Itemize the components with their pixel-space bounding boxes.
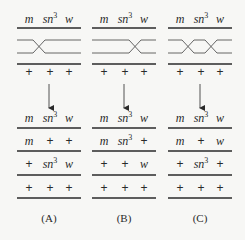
product-allele: m <box>25 111 34 125</box>
parent-top-allele: sn3 <box>118 11 133 26</box>
product-allele: m <box>100 111 109 125</box>
product-allele: + <box>216 157 223 171</box>
parent-bottom-allele: + <box>65 65 72 79</box>
product-chromosome: +++ <box>168 181 232 198</box>
product-allele: + <box>176 181 183 195</box>
parent-top-allele: m <box>100 12 109 26</box>
product-chromosome: msn3w <box>17 110 81 128</box>
parent-top-allele: sn3 <box>194 11 209 26</box>
parent-bottom-allele: + <box>25 65 32 79</box>
product-allele: w <box>65 111 73 125</box>
product-allele: + <box>121 181 128 195</box>
product-allele: + <box>100 181 107 195</box>
crossover-strands <box>92 40 156 53</box>
panel-a: msn3w+++msn3wm+++sn3w+++(A) <box>17 11 81 225</box>
panel-label: (C) <box>193 212 208 225</box>
product-chromosome: +sn3w <box>17 156 81 175</box>
parent-top-allele: m <box>25 12 34 26</box>
product-allele: + <box>140 181 147 195</box>
product-allele: sn3 <box>118 133 133 148</box>
product-allele: m <box>176 111 185 125</box>
product-allele: m <box>25 134 34 148</box>
product-allele: + <box>25 181 32 195</box>
product-allele: w <box>140 157 148 171</box>
product-allele: sn3 <box>194 110 209 125</box>
product-chromosome: +sn3+ <box>168 156 232 175</box>
product-allele: w <box>216 111 224 125</box>
product-chromosome: msn3w <box>168 110 232 128</box>
parent-top-allele: m <box>176 12 185 26</box>
parent-bottom-allele: + <box>176 65 183 79</box>
product-allele: m <box>100 134 109 148</box>
product-chromosome: +++ <box>92 181 156 198</box>
product-allele: + <box>65 134 72 148</box>
product-chromosome: m++ <box>17 134 81 151</box>
product-allele: + <box>176 157 183 171</box>
parent-bottom-allele: + <box>121 65 128 79</box>
product-allele: m <box>176 134 185 148</box>
product-allele: w <box>216 134 224 148</box>
product-allele: + <box>25 157 32 171</box>
parent-bottom-allele: + <box>100 65 107 79</box>
product-chromosome: m+w <box>168 134 232 151</box>
product-allele: w <box>65 157 73 171</box>
product-allele: sn3 <box>43 156 58 171</box>
product-chromosome: ++w <box>92 157 156 175</box>
product-allele: + <box>100 157 107 171</box>
product-chromosome: msn3w <box>92 110 156 128</box>
panel-label: (B) <box>117 212 132 225</box>
panel-b: msn3w+++msn3wmsn3+++w+++(B) <box>92 11 156 225</box>
product-allele: + <box>197 134 204 148</box>
crossover-strands <box>17 40 81 53</box>
product-allele: + <box>65 181 72 195</box>
panel-label: (A) <box>41 212 57 225</box>
product-allele: + <box>140 134 147 148</box>
crossover-strands <box>168 40 232 53</box>
product-allele: + <box>216 181 223 195</box>
parent-top-allele: w <box>65 12 73 26</box>
product-allele: + <box>46 181 53 195</box>
product-chromosome: msn3+ <box>92 133 156 151</box>
product-allele: + <box>46 134 53 148</box>
panel-c: msn3w+++msn3wm+w+sn3++++(C) <box>168 11 232 225</box>
parent-top-allele: w <box>216 12 224 26</box>
product-allele: + <box>121 157 128 171</box>
product-allele: + <box>197 181 204 195</box>
product-allele: sn3 <box>118 110 133 125</box>
product-allele: sn3 <box>194 156 209 171</box>
product-chromosome: +++ <box>17 181 81 198</box>
parent-bottom-allele: + <box>140 65 147 79</box>
parent-bottom-allele: + <box>197 65 204 79</box>
parent-top-allele: w <box>140 12 148 26</box>
product-allele: w <box>140 111 148 125</box>
parent-bottom-allele: + <box>216 65 223 79</box>
parent-bottom-allele: + <box>46 65 53 79</box>
recombination-diagram: msn3w+++msn3wm+++sn3w+++(A)msn3w+++msn3w… <box>0 0 245 240</box>
parent-top-allele: sn3 <box>43 11 58 26</box>
product-allele: sn3 <box>43 110 58 125</box>
